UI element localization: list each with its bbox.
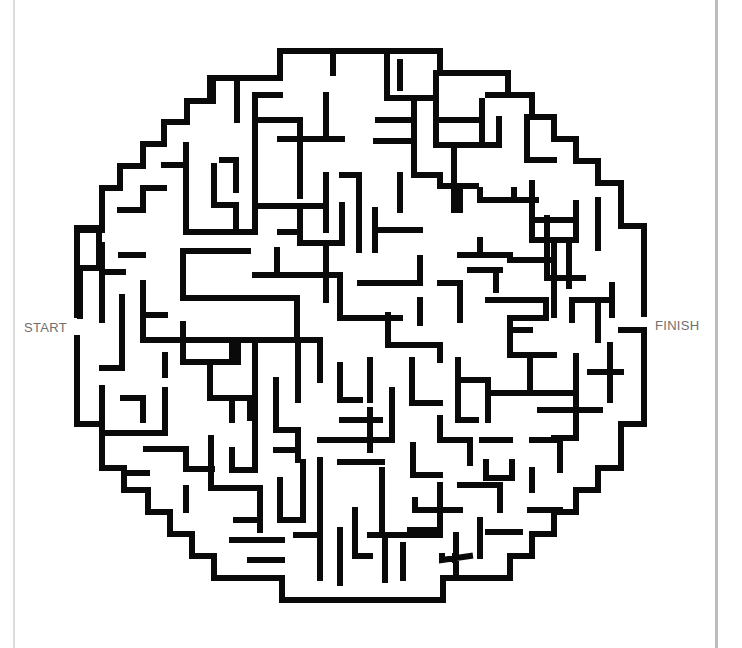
- maze-interior-walls: [102, 51, 644, 583]
- maze-board[interactable]: [0, 0, 742, 648]
- maze-outer-wall: [77, 51, 644, 600]
